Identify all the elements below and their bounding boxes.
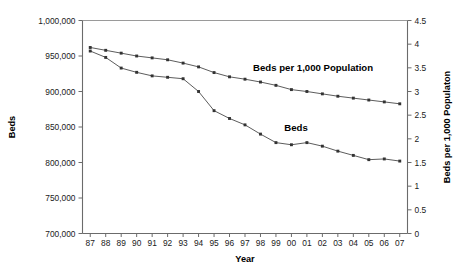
x-axis-tick-label: 99	[271, 238, 281, 248]
data-point-marker	[259, 81, 262, 84]
x-axis-tick-label: 00	[287, 238, 297, 248]
x-axis-tick-label: 97	[240, 238, 250, 248]
data-point-marker	[197, 90, 200, 93]
x-axis-tick-label: 96	[225, 238, 235, 248]
x-axis-tick-label: 95	[209, 238, 219, 248]
data-point-marker	[244, 123, 247, 126]
x-axis-tick-label: 92	[163, 238, 173, 248]
chart-container: 700,000750,000800,000850,000900,000950,0…	[0, 0, 462, 274]
data-point-marker	[336, 95, 339, 98]
y-axis-left-tick-label: 950,000	[45, 51, 76, 61]
x-axis-tick-label: 04	[349, 238, 359, 248]
data-point-marker	[244, 78, 247, 81]
data-point-marker	[383, 158, 386, 161]
data-point-marker	[367, 99, 370, 102]
y-axis-left-tick-label: 800,000	[45, 158, 76, 168]
data-point-marker	[290, 88, 293, 91]
data-point-marker	[151, 74, 154, 77]
data-point-marker	[151, 56, 154, 59]
data-point-marker	[135, 55, 138, 58]
x-axis-tick-label: 91	[147, 238, 157, 248]
beds-label: Beds	[284, 122, 307, 133]
data-point-marker	[104, 49, 107, 52]
x-axis-title: Year	[235, 254, 255, 264]
y-axis-left-title: Beds	[7, 116, 17, 138]
y-axis-left-tick-label: 1,000,000	[38, 16, 76, 26]
data-point-marker	[275, 141, 278, 144]
x-axis-tick-label: 98	[256, 238, 266, 248]
data-point-marker	[228, 75, 231, 78]
x-axis-tick-label: 06	[380, 238, 390, 248]
data-point-marker	[89, 50, 92, 53]
data-point-marker	[166, 76, 169, 79]
data-point-marker	[305, 90, 308, 93]
x-axis-tick-label: 07	[395, 238, 405, 248]
y-axis-right-tick-label: 4.5	[415, 16, 427, 26]
data-point-marker	[182, 62, 185, 65]
data-point-marker	[398, 102, 401, 105]
y-axis-right-tick-label: 4	[415, 39, 420, 49]
y-axis-right-title: Beds per 1,000 Populaton	[442, 70, 452, 183]
data-point-marker	[398, 160, 401, 163]
data-point-marker	[352, 97, 355, 100]
y-axis-right-tick-label: 2.5	[415, 110, 427, 120]
data-point-marker	[213, 71, 216, 74]
y-axis-right-tick-label: 2	[415, 134, 420, 144]
data-point-marker	[336, 150, 339, 153]
y-axis-left-tick-label: 900,000	[45, 87, 76, 97]
y-axis-right-tick-label: 1	[415, 181, 420, 191]
data-point-marker	[290, 143, 293, 146]
x-axis-tick-label: 03	[333, 238, 343, 248]
x-axis-tick-label: 87	[86, 238, 96, 248]
data-point-marker	[228, 117, 231, 120]
beds-per-1000-label: Beds per 1,000 Population	[253, 62, 373, 73]
y-axis-right-tick-label: 3.5	[415, 63, 427, 73]
data-point-marker	[383, 100, 386, 103]
y-axis-left-tick-label: 700,000	[45, 229, 76, 239]
data-point-marker	[305, 141, 308, 144]
data-point-marker	[275, 84, 278, 87]
x-axis-tick-label: 01	[302, 238, 312, 248]
data-point-marker	[135, 71, 138, 74]
y-axis-right-tick-label: 3	[415, 87, 420, 97]
data-point-marker	[321, 92, 324, 95]
line-chart: 700,000750,000800,000850,000900,000950,0…	[0, 0, 462, 274]
y-axis-left-tick-label: 850,000	[45, 122, 76, 132]
y-axis-right-tick-label: 1.5	[415, 158, 427, 168]
x-axis-tick-label: 05	[364, 238, 374, 248]
data-point-marker	[120, 52, 123, 55]
x-axis-tick-label: 88	[101, 238, 111, 248]
x-axis-tick-label: 90	[132, 238, 142, 248]
data-point-marker	[213, 109, 216, 112]
data-point-marker	[166, 58, 169, 61]
x-axis-tick-label: 93	[178, 238, 188, 248]
x-axis-tick-label: 89	[117, 238, 127, 248]
x-axis-tick-label: 94	[194, 238, 204, 248]
data-point-marker	[89, 46, 92, 49]
data-point-marker	[259, 133, 262, 136]
data-point-marker	[120, 67, 123, 70]
y-axis-right-tick-label: 0.5	[415, 205, 427, 215]
data-point-marker	[352, 154, 355, 157]
data-point-marker	[321, 145, 324, 148]
y-axis-left-tick-label: 750,000	[45, 193, 76, 203]
y-axis-right-tick-label: 0	[415, 229, 420, 239]
data-point-marker	[104, 56, 107, 59]
x-axis-tick-label: 02	[318, 238, 328, 248]
data-point-marker	[182, 77, 185, 80]
data-point-marker	[197, 65, 200, 68]
data-point-marker	[367, 158, 370, 161]
